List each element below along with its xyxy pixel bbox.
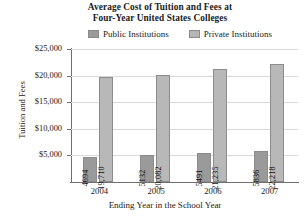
x-axis-category-label: 2007 [242, 186, 298, 196]
y-axis-tick [67, 129, 71, 130]
chart-title-line-2: Four-Year United States Colleges [40, 13, 280, 24]
chart-legend: Public Institutions Private Institutions [60, 29, 300, 39]
bar-private-2007: 22,218 [270, 64, 284, 182]
legend-item-public: Public Institutions [88, 29, 169, 39]
bar-value-label: 5132 [138, 169, 147, 186]
legend-label-private: Private Institutions [204, 29, 272, 39]
bar-public-2004: 4694 [83, 157, 97, 182]
bar-public-2006: 5491 [197, 153, 211, 182]
y-axis-tick [67, 76, 71, 77]
bar-value-label: 4694 [81, 169, 90, 186]
x-axis-category-label: 2004 [71, 186, 127, 196]
y-axis-tick-label: $15,000 [0, 97, 62, 106]
bar-public-2007: 5836 [254, 151, 268, 182]
chart-title-line-1: Average Cost of Tuition and Fees at [40, 2, 280, 13]
gridline [71, 49, 298, 50]
y-axis-tick-label: $10,000 [0, 124, 62, 133]
x-axis-category-label: 2005 [128, 186, 184, 196]
chart-title: Average Cost of Tuition and Fees at Four… [40, 2, 280, 24]
y-axis-tick-label: $25,000 [0, 44, 62, 53]
x-axis-title: Ending Year in the School Year [40, 200, 290, 210]
bar-chart: Average Cost of Tuition and Fees at Four… [0, 0, 307, 219]
bar-public-2005: 5132 [140, 155, 154, 182]
legend-swatch-public-icon [88, 30, 99, 38]
x-axis-category-label: 2006 [185, 186, 241, 196]
legend-label-public: Public Institutions [103, 29, 169, 39]
bar-private-2005: 20,082 [156, 75, 170, 182]
y-axis-tick-label: $5,000 [0, 150, 62, 159]
legend-swatch-private-icon [189, 30, 200, 38]
bar-value-label: 5836 [252, 169, 261, 186]
plot-area: 469419,710513220,082549121,235583622,218 [71, 49, 298, 182]
y-axis-tick [67, 49, 71, 50]
y-axis-tick [67, 155, 71, 156]
y-axis-tick-label: $20,000 [0, 71, 62, 80]
legend-item-private: Private Institutions [189, 29, 272, 39]
bar-private-2006: 21,235 [213, 69, 227, 182]
bar-private-2004: 19,710 [99, 77, 113, 182]
bar-value-label: 5491 [195, 169, 204, 186]
y-axis-tick [67, 102, 71, 103]
